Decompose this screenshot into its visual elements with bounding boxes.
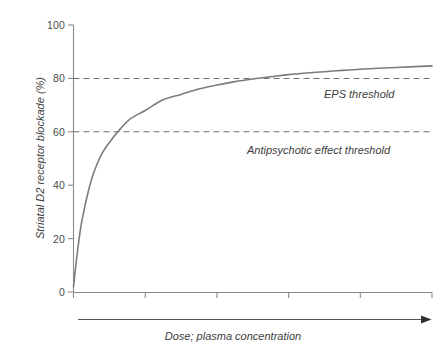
y-axis-title: Striatal D2 receptor blockade (%) (34, 48, 46, 268)
x-axis-arrow-icon (78, 315, 432, 323)
x-axis-title: Dose; plasma concentration (78, 330, 388, 342)
antipsychotic-threshold-label: Antipsychotic effect threshold (247, 144, 390, 156)
chart-plot-area (0, 0, 446, 355)
y-tick-label-0: 0 (39, 286, 65, 298)
x-axis-ticks (74, 293, 433, 299)
eps-threshold-label: EPS threshold (324, 88, 394, 100)
chart-figure: 100 80 60 40 20 0 Striatal D2 receptor b… (0, 0, 446, 355)
y-axis-ticks (68, 25, 74, 292)
y-tick-label-100: 100 (39, 19, 65, 31)
